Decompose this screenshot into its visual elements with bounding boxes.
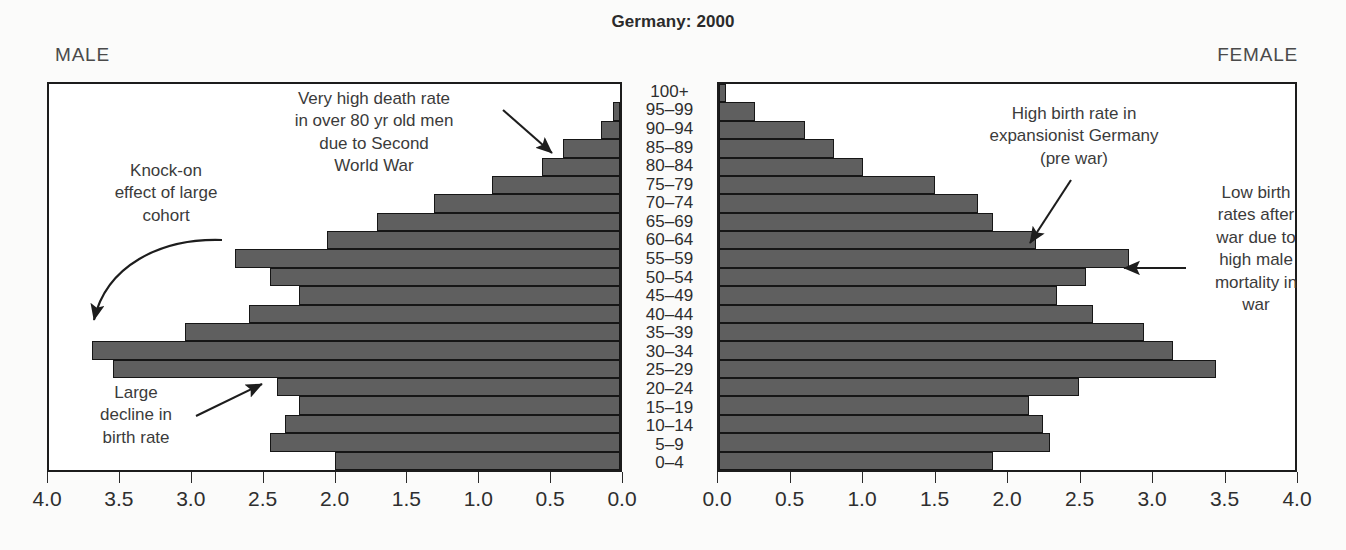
bar-row [49,286,620,304]
age-group-label: 40–44 [622,305,717,324]
male-bar-25-29 [113,360,620,378]
female-bar-20-24 [719,378,1079,396]
female-bar-0-4 [719,452,993,470]
bar-row [719,378,1295,396]
female-bar-15-19 [719,396,1029,414]
female-axis-tick-label: 0.5 [775,487,804,511]
male-bar-30-34 [92,341,620,359]
annotation-high-birth: High birth rate in expansionist Germany … [948,103,1200,170]
bar-row [49,305,620,323]
male-bar-80-84 [542,158,621,176]
bar-row [49,360,620,378]
female-axis-tick [862,472,863,483]
male-bar-15-19 [299,396,620,414]
bar-row [49,323,620,341]
male-bar-75-79 [492,176,620,194]
annotation-birth-decline: Large decline in birth rate [70,382,202,449]
female-bar-85-89 [719,139,834,157]
female-axis-tick [790,472,791,483]
chart-title: Germany: 2000 [0,12,1346,32]
age-group-label: 5–9 [622,435,717,454]
male-bar-65-69 [377,213,620,231]
female-bar-55-59 [719,249,1129,267]
male-axis-tick [622,472,623,483]
age-group-label: 45–49 [622,286,717,305]
male-bar-5-9 [270,433,620,451]
female-axis-tick [1225,472,1226,483]
age-group-label: 30–34 [622,342,717,361]
male-bar-40-44 [249,305,620,323]
female-axis-tick-label: 1.0 [847,487,876,511]
annotation-low-birth: Low birth rates after war due to high ma… [1186,182,1326,317]
male-axis-tick [406,472,407,483]
age-group-label: 50–54 [622,268,717,287]
female-bar-25-29 [719,360,1216,378]
male-bar-35-39 [185,323,620,341]
female-axis-tick-label: 2.0 [992,487,1021,511]
male-bar-50-54 [270,268,620,286]
age-group-label: 55–59 [622,249,717,268]
male-bar-20-24 [277,378,620,396]
male-axis-caption: MALE [55,44,110,66]
male-axis-tick-label: 0.5 [536,487,565,511]
male-bar-45-49 [299,286,620,304]
female-axis-caption: FEMALE [1217,44,1298,66]
female-axis-tick-label: 1.5 [920,487,949,511]
male-axis-tick-label: 2.0 [320,487,349,511]
male-bar-90-94 [601,121,620,139]
male-axis-tick-label: 4.0 [32,487,61,511]
female-axis-tick [717,472,718,483]
female-bar-10-14 [719,415,1043,433]
female-bar-95-99 [719,102,755,120]
female-axis-tick-label: 0.0 [702,487,731,511]
female-bar-30-34 [719,341,1173,359]
female-axis-tick [1297,472,1298,483]
annotation-knock-on: Knock-on effect of large cohort [78,160,254,227]
female-bar-65-69 [719,213,993,231]
population-pyramid-figure: Germany: 2000 MALE FEMALE 100+95–9990–94… [0,0,1346,550]
female-bar-5-9 [719,433,1050,451]
age-group-label-column: 100+95–9990–9485–8980–8475–7970–7465–696… [622,82,717,472]
female-axis-tick [1152,472,1153,483]
female-axis-tick [1007,472,1008,483]
female-axis-tick-label: 4.0 [1282,487,1311,511]
male-axis-tick [47,472,48,483]
female-bar-50-54 [719,268,1086,286]
age-group-label: 65–69 [622,212,717,231]
female-x-axis: 0.00.51.01.52.02.53.03.54.0 [717,472,1297,532]
bar-row [49,341,620,359]
male-bar-10-14 [285,415,620,433]
age-group-label: 100+ [622,82,717,101]
age-group-label: 80–84 [622,156,717,175]
male-axis-tick-label: 1.0 [464,487,493,511]
female-axis-tick [1080,472,1081,483]
age-group-label: 75–79 [622,175,717,194]
bar-row [719,415,1295,433]
male-axis-tick-label: 2.5 [248,487,277,511]
age-group-label: 95–99 [622,101,717,120]
male-axis-tick [335,472,336,483]
male-axis-tick-label: 1.5 [392,487,421,511]
bar-row [719,84,1295,102]
age-group-label: 20–24 [622,379,717,398]
male-x-axis: 4.03.53.02.52.01.51.00.50.0 [47,472,622,532]
male-axis-tick [119,472,120,483]
bar-row [49,452,620,470]
bar-row [49,268,620,286]
bar-row [719,341,1295,359]
female-bar-35-39 [719,323,1144,341]
bar-row [719,396,1295,414]
male-bar-0-4 [335,452,621,470]
age-group-label: 35–39 [622,324,717,343]
female-bar-70-74 [719,194,978,212]
female-bar-100+ [719,84,726,102]
female-axis-tick-label: 3.5 [1210,487,1239,511]
bar-row [49,231,620,249]
age-group-label: 70–74 [622,193,717,212]
female-bar-40-44 [719,305,1093,323]
male-bar-55-59 [235,249,620,267]
female-bar-90-94 [719,121,805,139]
age-group-label: 25–29 [622,361,717,380]
bar-row [719,452,1295,470]
annotation-death-rate: Very high death rate in over 80 yr old m… [258,88,490,178]
